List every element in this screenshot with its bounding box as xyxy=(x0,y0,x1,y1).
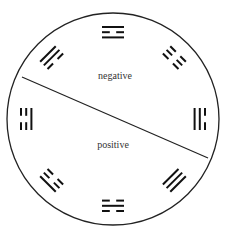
outer-circle xyxy=(7,13,219,225)
broken-line xyxy=(173,64,179,70)
broken-line xyxy=(54,183,60,189)
solid-line xyxy=(167,173,183,189)
trigram-diagram: negative positive xyxy=(0,0,225,236)
solid-line xyxy=(163,169,179,185)
trigram-top-right xyxy=(163,46,186,69)
broken-line xyxy=(48,169,54,175)
solid-line xyxy=(170,176,186,192)
solid-line xyxy=(40,46,56,62)
trigram-right xyxy=(195,108,205,130)
broken-line xyxy=(177,60,183,66)
broken-line xyxy=(167,50,173,56)
negative-label: negative xyxy=(98,70,132,81)
trigram-bottom xyxy=(102,201,124,211)
trigram-bottom-left xyxy=(40,169,63,192)
broken-line xyxy=(180,56,186,62)
trigram-left xyxy=(21,108,31,130)
broken-line xyxy=(58,54,64,60)
diagram-canvas xyxy=(0,0,225,236)
positive-label: positive xyxy=(97,139,129,150)
solid-line xyxy=(40,176,56,192)
solid-line xyxy=(44,50,60,66)
broken-line xyxy=(170,46,176,52)
broken-line xyxy=(163,54,169,60)
trigram-top xyxy=(102,27,124,37)
trigram-group xyxy=(21,27,205,211)
broken-line xyxy=(58,179,64,185)
trigram-bottom-right xyxy=(163,169,186,192)
trigram-top-left xyxy=(40,46,63,69)
broken-line xyxy=(44,173,50,179)
broken-line xyxy=(48,64,54,70)
